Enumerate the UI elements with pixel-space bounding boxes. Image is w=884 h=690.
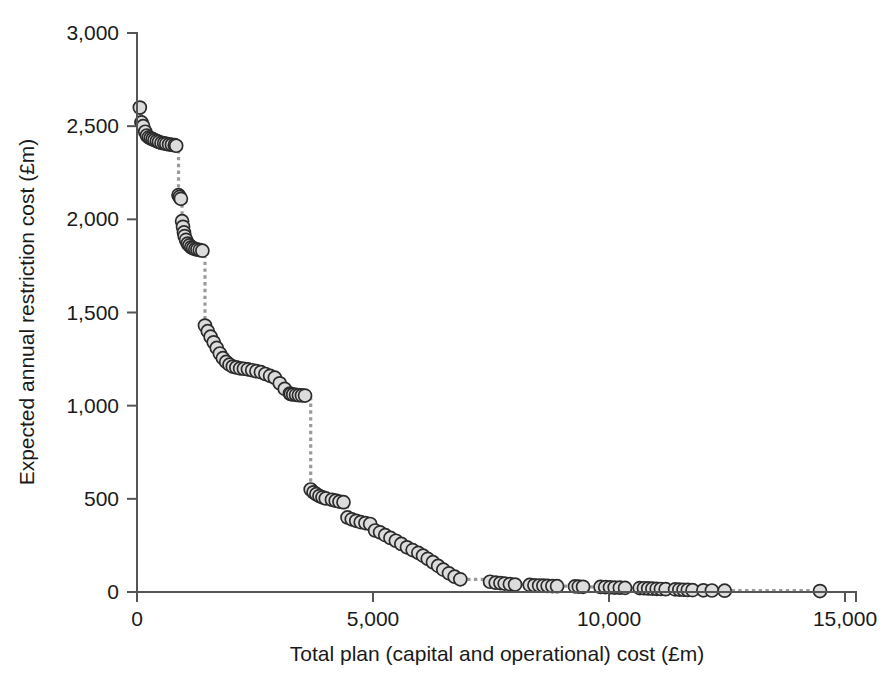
data-point xyxy=(337,496,350,509)
data-point xyxy=(174,192,187,205)
data-point xyxy=(170,139,183,152)
x-axis-ticks: 05,00010,00015,000 xyxy=(131,592,877,630)
x-tick-label: 10,000 xyxy=(577,607,641,630)
y-tick-label: 1,000 xyxy=(66,394,119,417)
y-tick-label: 1,500 xyxy=(66,301,119,324)
frontier-connector-path xyxy=(140,108,820,592)
y-axis-ticks: 05001,0001,5002,0002,5003,000 xyxy=(66,21,137,603)
y-tick-label: 2,500 xyxy=(66,114,119,137)
data-point xyxy=(718,584,731,597)
chart-figure: 05001,0001,5002,0002,5003,000 05,00010,0… xyxy=(0,0,884,690)
x-axis-title: Total plan (capital and operational) cos… xyxy=(290,642,704,665)
y-tick-label: 3,000 xyxy=(66,21,119,44)
axes-layer xyxy=(137,33,856,592)
y-tick-label: 2,000 xyxy=(66,207,119,230)
y-tick-label: 0 xyxy=(107,580,119,603)
data-point xyxy=(705,584,718,597)
scatter-plot: 05001,0001,5002,0002,5003,000 05,00010,0… xyxy=(0,0,884,690)
data-point xyxy=(299,389,312,402)
x-tick-label: 0 xyxy=(131,607,143,630)
data-point xyxy=(509,578,522,591)
y-axis-title: Expected annual restriction cost (£m) xyxy=(15,139,38,486)
x-tick-label: 15,000 xyxy=(813,607,877,630)
x-tick-label: 5,000 xyxy=(347,607,400,630)
connector-line-layer xyxy=(140,108,820,592)
data-point xyxy=(551,580,564,593)
data-point xyxy=(454,573,467,586)
y-tick-label: 500 xyxy=(84,487,119,510)
data-point xyxy=(133,101,146,114)
data-point-layer xyxy=(133,101,826,598)
data-point xyxy=(196,244,209,257)
